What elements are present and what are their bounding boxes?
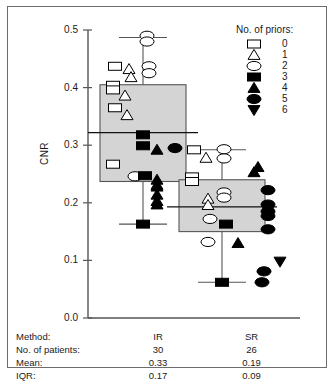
- legend-item-label: 2: [282, 60, 288, 71]
- data-point: [137, 220, 150, 228]
- filled-triangle-up-glyph: [248, 82, 260, 92]
- data-point: [140, 37, 154, 46]
- data-point: [109, 104, 122, 112]
- legend-item-label: 0: [282, 38, 288, 49]
- data-point: [188, 146, 201, 154]
- open-square-glyph: [248, 40, 261, 48]
- y-tick-label: 0.4: [52, 82, 78, 93]
- table-cell-ir: 30: [112, 344, 204, 355]
- data-point: [139, 172, 152, 180]
- data-point: [123, 64, 135, 74]
- data-point: [216, 278, 229, 286]
- y-tick-label: 0.3: [52, 139, 78, 150]
- data-point: [200, 152, 212, 162]
- table-row-key: IQR:: [16, 370, 112, 381]
- filled-ellipse-glyph: [247, 94, 261, 103]
- legend-item-label: 3: [282, 71, 288, 82]
- data-point: [109, 62, 122, 70]
- data-point: [217, 145, 231, 154]
- data-point: [107, 160, 120, 168]
- table-cell-ir: 0.17: [112, 370, 204, 381]
- y-axis-title: CNR: [39, 124, 50, 184]
- table-cell-ir: IR: [112, 331, 204, 342]
- filled-triangle-down-icon: [240, 104, 268, 116]
- table-row: No. of patients:3026: [16, 343, 316, 356]
- data-point: [168, 143, 182, 152]
- legend: 0123456: [240, 38, 288, 115]
- table-row-key: Method:: [16, 331, 112, 342]
- y-tick-label: 0.5: [52, 24, 78, 35]
- table-cell-sr: SR: [204, 331, 299, 342]
- filled-square-glyph: [248, 73, 261, 81]
- table-row: Mean:0.330.19: [16, 356, 316, 369]
- legend-item-label: 1: [282, 49, 288, 60]
- table-row-key: Mean:: [16, 357, 112, 368]
- data-point: [203, 214, 217, 223]
- figure-panel: CNR 0.50.40.30.20.10.0 No. of priors: 01…: [0, 0, 335, 391]
- legend-item[interactable]: 3: [240, 71, 288, 82]
- legend-item-label: 4: [282, 82, 288, 93]
- data-point: [232, 238, 244, 248]
- legend-item[interactable]: 6: [240, 104, 288, 115]
- data-point: [186, 177, 199, 185]
- y-tick-label: 0.1: [52, 254, 78, 265]
- data-point: [201, 237, 215, 246]
- legend-item[interactable]: 2: [240, 60, 288, 71]
- legend-item-label: 6: [282, 104, 288, 115]
- open-triangle-up-glyph: [248, 49, 260, 59]
- table-cell-ir: 0.33: [112, 357, 204, 368]
- table-row: Method:IRSR: [16, 330, 316, 343]
- open-ellipse-glyph: [247, 61, 261, 70]
- data-point: [274, 257, 286, 267]
- legend-item[interactable]: 1: [240, 49, 288, 60]
- data-point: [257, 267, 271, 276]
- legend-item[interactable]: 5: [240, 93, 288, 104]
- summary-table: Method:IRSRNo. of patients:3026Mean:0.33…: [16, 330, 316, 382]
- table-cell-sr: 26: [204, 344, 299, 355]
- legend-item[interactable]: 4: [240, 82, 288, 93]
- legend-item-label: 5: [282, 93, 288, 104]
- data-point: [255, 278, 269, 287]
- y-tick-label: 0.0: [52, 312, 78, 323]
- y-tick-label: 0.2: [52, 197, 78, 208]
- data-point: [107, 86, 120, 94]
- table-row: IQR:0.170.09: [16, 369, 316, 382]
- data-point: [261, 186, 275, 195]
- data-point: [261, 211, 275, 220]
- data-point: [142, 69, 156, 78]
- table-cell-sr: 0.09: [204, 370, 299, 381]
- table-cell-sr: 0.19: [204, 357, 299, 368]
- table-row-key: No. of patients:: [16, 344, 112, 355]
- legend-title: No. of priors:: [236, 24, 293, 35]
- data-point: [217, 154, 231, 163]
- data-point: [217, 193, 231, 202]
- data-point: [261, 225, 275, 234]
- data-point: [137, 131, 150, 139]
- data-point: [220, 220, 233, 228]
- data-point: [137, 142, 150, 150]
- filled-triangle-down-glyph: [248, 105, 260, 115]
- legend-item[interactable]: 0: [240, 38, 288, 49]
